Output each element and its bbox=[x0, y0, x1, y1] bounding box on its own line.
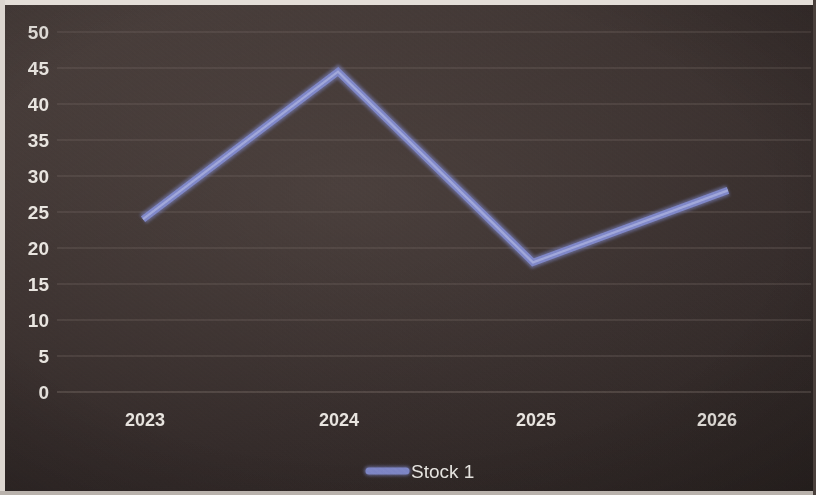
y-tick-label: 40 bbox=[28, 94, 49, 115]
y-tick-label: 15 bbox=[28, 274, 50, 295]
y-tick-label: 50 bbox=[28, 22, 49, 43]
chart-legend[interactable]: Stock 1 bbox=[369, 461, 474, 482]
y-tick-label: 45 bbox=[28, 58, 50, 79]
x-tick-label-2026: 2026 bbox=[697, 410, 737, 430]
line-chart: 50 45 40 35 30 25 20 15 10 5 0 2023 bbox=[5, 5, 813, 491]
chart-plate: 50 45 40 35 30 25 20 15 10 5 0 2023 bbox=[5, 5, 813, 491]
y-tick-label: 10 bbox=[28, 310, 49, 331]
y-tick-label: 20 bbox=[28, 238, 49, 259]
series-stock-1 bbox=[143, 72, 728, 263]
legend-label-stock-1: Stock 1 bbox=[411, 461, 474, 482]
x-tick-label-2024: 2024 bbox=[319, 410, 359, 430]
gridlines bbox=[57, 32, 811, 392]
y-axis-tick-labels: 50 45 40 35 30 25 20 15 10 5 0 bbox=[28, 22, 50, 403]
x-tick-label-2023: 2023 bbox=[125, 410, 165, 430]
y-tick-label: 25 bbox=[28, 202, 50, 223]
y-tick-label: 0 bbox=[38, 382, 49, 403]
frame-edge-bottom bbox=[0, 491, 816, 495]
y-tick-label: 5 bbox=[38, 346, 49, 367]
x-tick-label-2025: 2025 bbox=[516, 410, 556, 430]
series-line-highlight bbox=[143, 72, 728, 263]
y-tick-label: 30 bbox=[28, 166, 49, 187]
x-axis-tick-labels: 2023 2024 2025 2026 bbox=[125, 410, 737, 430]
y-tick-label: 35 bbox=[28, 130, 50, 151]
chart-photo-frame: 50 45 40 35 30 25 20 15 10 5 0 2023 bbox=[0, 0, 816, 495]
